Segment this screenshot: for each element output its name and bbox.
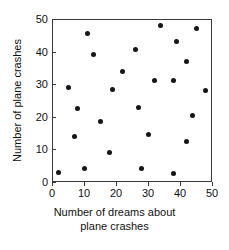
y-axis-tick (52, 117, 56, 118)
y-axis-tick-label: 0 (22, 177, 48, 188)
x-axis-title-line-2: plane crashes (0, 219, 229, 233)
x-axis-tick (52, 182, 53, 186)
y-axis-tick-label: 50 (22, 14, 48, 25)
x-axis-tick (212, 182, 213, 186)
data-point (194, 26, 199, 31)
data-point (146, 132, 151, 137)
x-axis-tick (148, 182, 149, 186)
x-axis-tick-label: 10 (74, 188, 94, 199)
x-axis-title: Number of dreams about plane crashes (0, 205, 229, 233)
x-axis-tick-label: 50 (202, 188, 222, 199)
plot-area (52, 19, 212, 182)
y-axis-tick-label: 20 (22, 112, 48, 123)
scatter-plot-figure: 0102030405001020304050 Number of dreams … (0, 0, 229, 250)
data-point (85, 31, 90, 36)
y-axis-tick-label: 10 (22, 144, 48, 155)
y-axis-tick-label: 30 (22, 79, 48, 90)
data-point (98, 119, 103, 124)
y-axis-tick (52, 19, 56, 20)
y-axis-tick (52, 84, 56, 85)
data-point (136, 105, 141, 110)
data-point (184, 59, 189, 64)
data-point (72, 134, 77, 139)
x-axis-tick (116, 182, 117, 186)
x-axis-tick-label: 0 (42, 188, 62, 199)
data-point (110, 87, 115, 92)
x-axis-tick (84, 182, 85, 186)
data-point (66, 85, 71, 90)
data-point (56, 170, 61, 175)
data-point (190, 113, 195, 118)
data-point (184, 139, 189, 144)
y-axis-tick (52, 149, 56, 150)
x-axis-tick (180, 182, 181, 186)
y-axis-tick-label: 40 (22, 47, 48, 58)
x-axis-tick-label: 30 (138, 188, 158, 199)
x-axis-tick-label: 40 (170, 188, 190, 199)
data-point (120, 69, 125, 74)
x-axis-title-line-1: Number of dreams about (0, 205, 229, 219)
x-axis-tick-label: 20 (106, 188, 126, 199)
y-axis-title: Number of plane crashes (12, 21, 23, 181)
y-axis-tick (52, 52, 56, 53)
